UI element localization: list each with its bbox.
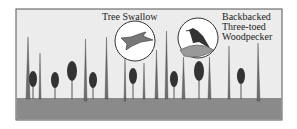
woodpecker-label: Backbacked Three-toed Woodpecker [222,12,272,42]
ground [17,98,282,120]
woodpecker-inset [178,18,218,58]
tree-swallow-inset [115,21,155,61]
woodpecker-label-line3: Woodpecker [222,32,272,42]
tree-swallow-label: Tree Swallow [102,12,157,22]
